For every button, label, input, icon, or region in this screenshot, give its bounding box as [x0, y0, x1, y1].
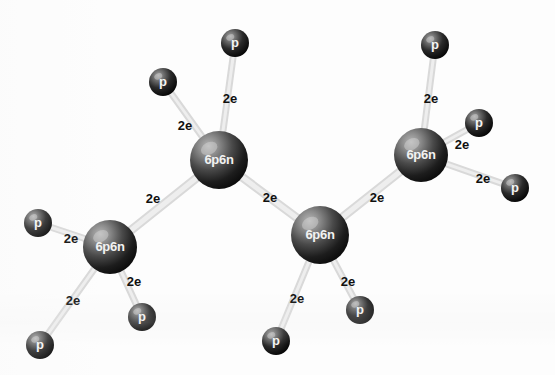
bond-electron-label: 2e: [223, 91, 237, 106]
bond-electron-label: 2e: [178, 118, 192, 133]
hydrogen-atom-h1[interactable]: p: [24, 209, 52, 237]
molecule-svg: 6p6n6p6n6p6n6p6npppppppppp 2e2e2e2e2e2e2…: [0, 0, 555, 375]
hydrogen-atom-label: p: [356, 302, 364, 317]
hydrogen-atom-label: p: [431, 37, 439, 52]
hydrogen-atom-label: p: [34, 215, 42, 230]
hydrogen-atom-h2[interactable]: p: [26, 331, 54, 359]
bond-electron-label: 2e: [341, 274, 355, 289]
bond-electron-label: 2e: [127, 274, 141, 289]
hydrogen-atom-h8[interactable]: p: [421, 31, 449, 59]
bond-electron-label: 2e: [146, 191, 160, 206]
carbon-atom-c3[interactable]: 6p6n: [291, 206, 349, 264]
hydrogen-atom-h7[interactable]: p: [346, 296, 374, 324]
carbon-atom-c1[interactable]: 6p6n: [83, 220, 137, 274]
hydrogen-atom-h4[interactable]: p: [149, 68, 177, 96]
carbon-atom-label: 6p6n: [305, 227, 335, 242]
hydrogen-atom-label: p: [36, 337, 44, 352]
bond-electron-label: 2e: [455, 137, 469, 152]
hydrogen-atom-h9[interactable]: p: [465, 109, 493, 137]
hydrogen-atom-h3[interactable]: p: [128, 303, 156, 331]
bond-electron-label: 2e: [290, 291, 304, 306]
hydrogen-atom-label: p: [272, 333, 280, 348]
hydrogen-atom-label: p: [231, 35, 239, 50]
hydrogen-atom-label: p: [159, 74, 167, 89]
bond-electron-label: 2e: [424, 91, 438, 106]
molecule-diagram-canvas: 6p6n6p6n6p6n6p6npppppppppp 2e2e2e2e2e2e2…: [0, 0, 555, 375]
carbon-atom-label: 6p6n: [95, 239, 125, 254]
bond-electron-label: 2e: [66, 293, 80, 308]
hydrogen-atom-label: p: [138, 309, 146, 324]
hydrogen-atom-h10[interactable]: p: [501, 174, 529, 202]
hydrogen-atom-h6[interactable]: p: [262, 327, 290, 355]
bond-electron-label: 2e: [370, 190, 384, 205]
hydrogen-atom-label: p: [475, 115, 483, 130]
bond-electron-label: 2e: [263, 190, 277, 205]
carbon-atom-label: 6p6n: [204, 152, 234, 167]
hydrogen-atom-h5[interactable]: p: [221, 29, 249, 57]
carbon-atom-label: 6p6n: [406, 147, 436, 162]
bond-electron-label: 2e: [64, 231, 78, 246]
hydrogen-atom-label: p: [511, 180, 519, 195]
carbon-atom-c2[interactable]: 6p6n: [190, 131, 248, 189]
carbon-atom-c4[interactable]: 6p6n: [394, 128, 448, 182]
bond-electron-label: 2e: [476, 171, 490, 186]
